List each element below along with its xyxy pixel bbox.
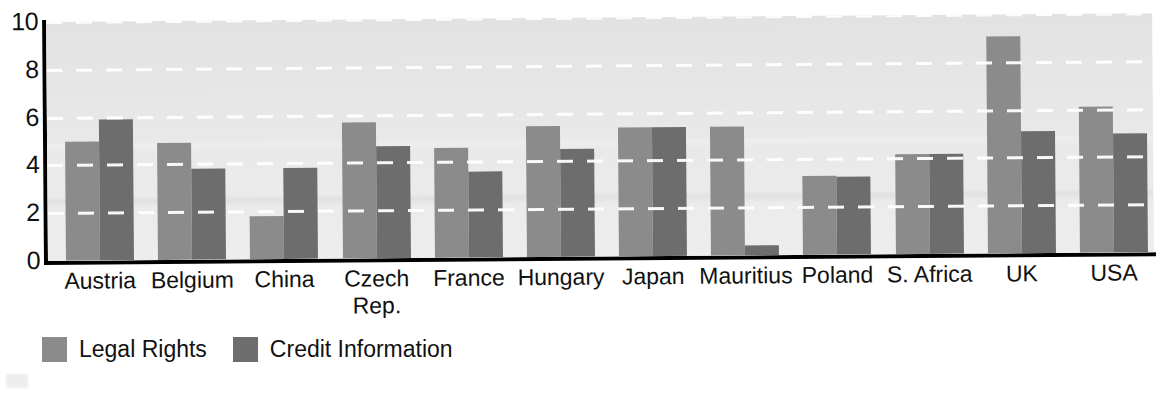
bar-usa-legal-rights [1079, 107, 1114, 253]
bar-hungary-legal-rights [526, 125, 561, 257]
y-tick-label-6: 6 [3, 105, 39, 130]
y-tick-label-4: 4 [3, 152, 39, 177]
bar-belgium-credit-information [192, 169, 227, 260]
legend-entry-legal-rights[interactable]: Legal Rights [42, 337, 207, 362]
bar-poland-legal-rights [803, 176, 838, 255]
bar-belgium-legal-rights [157, 143, 192, 260]
x-label-austria: Austria [54, 267, 146, 295]
chart-legend: Legal RightsCredit Information [42, 332, 453, 366]
bar-czech-rep-legal-rights [341, 122, 376, 258]
x-label-usa: USA [1068, 259, 1160, 287]
x-label-china: China [238, 266, 330, 294]
y-tick-label-10: 10 [2, 9, 38, 34]
bar-usa-credit-information [1113, 133, 1148, 253]
bar-poland-credit-information [837, 177, 872, 255]
plot-area [46, 13, 1154, 261]
y-axis-tick-labels: 0246810 [2, 0, 40, 280]
legend-label-credit-information: Credit Information [270, 337, 453, 362]
legend-label-legal-rights: Legal Rights [79, 337, 207, 362]
bar-france-credit-information [468, 171, 503, 257]
bar-china-credit-information [284, 168, 319, 259]
bar-mauritius-legal-rights [710, 126, 745, 255]
bar-uk-credit-information [1021, 131, 1056, 253]
scan-artifact [6, 374, 28, 388]
x-axis-category-labels: AustriaBelgiumChinaCzech Rep.FranceHunga… [48, 259, 1154, 330]
bar-japan-legal-rights [618, 127, 653, 256]
x-label-hungary: Hungary [515, 264, 607, 292]
bar-hungary-credit-information [560, 149, 595, 257]
legend-swatch-legal-rights [42, 337, 67, 362]
x-label-poland: Poland [791, 261, 883, 289]
x-label-s-africa: S. Africa [884, 261, 976, 289]
chart-body: 0246810 AustriaBelgiumChinaCzech Rep.Fra… [0, 0, 1164, 340]
x-label-czech-rep: Czech Rep. [331, 265, 424, 320]
x-label-uk: UK [976, 260, 1068, 288]
bars-layer [46, 13, 1154, 261]
x-label-japan: Japan [607, 263, 699, 291]
x-label-france: France [423, 264, 515, 292]
bar-mauritius-credit-information [745, 246, 779, 256]
bar-chart-figure: 0246810 AustriaBelgiumChinaCzech Rep.Fra… [0, 0, 1164, 397]
bar-s-africa-credit-information [929, 153, 964, 254]
y-tick-label-2: 2 [4, 200, 40, 225]
y-tick-label-0: 0 [4, 248, 40, 273]
x-label-mauritius: Mauritius [699, 262, 791, 290]
bar-france-legal-rights [434, 148, 469, 258]
legend-swatch-credit-information [233, 337, 258, 362]
bar-china-legal-rights [250, 216, 284, 259]
bar-austria-credit-information [99, 119, 134, 260]
bar-austria-legal-rights [65, 141, 100, 261]
x-label-belgium: Belgium [146, 266, 238, 294]
bar-s-africa-legal-rights [895, 154, 930, 255]
legend-entry-credit-information[interactable]: Credit Information [233, 337, 453, 362]
y-tick-label-8: 8 [2, 57, 38, 82]
bar-czech-rep-credit-information [376, 146, 411, 259]
bar-uk-legal-rights [986, 36, 1022, 254]
bar-japan-credit-information [652, 127, 687, 256]
